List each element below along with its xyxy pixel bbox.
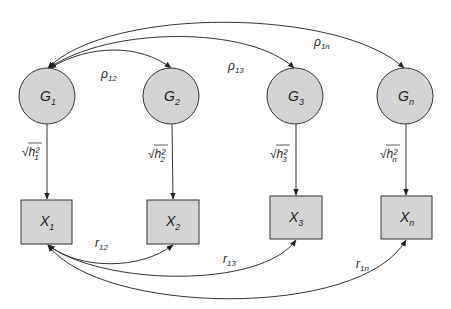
r-1n-label: r1n: [356, 257, 369, 273]
svg-text:√h²n: √h²n: [380, 147, 398, 164]
latent-node-gn: Gn: [377, 68, 433, 124]
svg-text:√h²2: √h²2: [148, 147, 166, 164]
rho-1n-label: ρ1n: [313, 35, 330, 51]
observed-node-x2: X2: [147, 200, 199, 244]
arc-x1-x2: [48, 245, 173, 264]
loading-label-1: √h²1: [22, 143, 42, 162]
arc-g1-gn: [48, 22, 404, 68]
observed-node-xn: Xn: [381, 196, 432, 239]
loading-arrows: [47, 124, 406, 199]
svg-text:√h²3: √h²3: [270, 147, 288, 164]
svg-text:√h²1: √h²1: [22, 145, 40, 162]
latent-node-g3: G3: [267, 68, 323, 124]
loading-label-n: √h²n: [380, 145, 400, 164]
observed-node-x3: X3: [270, 196, 322, 239]
arc-g1-g3: [49, 37, 294, 69]
latent-correlation-arcs: [48, 22, 404, 68]
rho-12-label: ρ12: [100, 67, 117, 83]
loading-label-2: √h²2: [148, 145, 168, 164]
arrow-g2-x2: [172, 124, 173, 199]
latent-node-g2: G2: [143, 68, 199, 124]
observed-node-x1: X1: [21, 200, 72, 244]
latent-node-g1: G1: [19, 68, 75, 124]
r-13-label: r13: [223, 252, 236, 268]
rho-13-label: ρ13: [227, 59, 244, 75]
loading-label-3: √h²3: [270, 145, 290, 164]
path-diagram: G1 G2 G3 Gn X1 X2 X3 Xn √h²1 √h²2 √h²3: [0, 0, 451, 309]
r-12-label: r12: [95, 236, 108, 252]
